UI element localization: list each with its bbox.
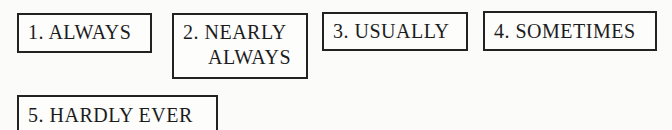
- option-always[interactable]: 1. ALWAYS: [17, 13, 152, 53]
- option-label-line2: ALWAYS: [183, 45, 306, 70]
- option-sometimes[interactable]: 4. SOMETIMES: [483, 11, 657, 51]
- option-nearly-always[interactable]: 2. NEARLY ALWAYS: [172, 13, 308, 79]
- option-label: 3. USUALLY: [333, 19, 466, 44]
- option-label: 4. SOMETIMES: [494, 19, 655, 44]
- option-usually[interactable]: 3. USUALLY: [322, 12, 468, 51]
- option-hardly-ever[interactable]: 5. HARDLY EVER: [17, 95, 218, 130]
- option-label: 5. HARDLY EVER: [28, 103, 216, 128]
- option-label: 1. ALWAYS: [28, 20, 150, 45]
- option-label-line1: 2. NEARLY: [183, 20, 306, 45]
